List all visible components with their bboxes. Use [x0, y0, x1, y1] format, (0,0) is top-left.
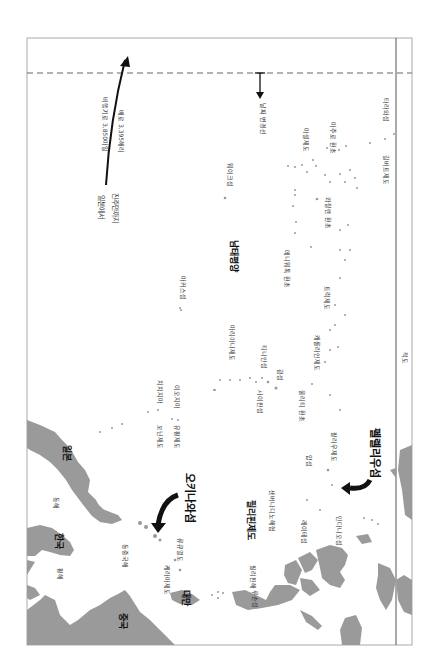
label-volcano: 유황제도	[174, 425, 180, 449]
land-japan	[27, 420, 122, 524]
label-china: 중국	[118, 613, 127, 629]
label-san-bernardino: 샌버나디노해협	[269, 490, 275, 532]
label-kwajalein: 콰잘렌 환초	[325, 197, 331, 229]
land-china	[27, 560, 175, 645]
label-luzon: 루손섬	[252, 590, 258, 608]
label-saipan: 사이판섬	[257, 390, 263, 414]
route-arrowhead-icon	[120, 56, 130, 67]
label-marshall: 마셜제도	[303, 128, 309, 152]
date-line-label: 날짜 변경선	[260, 103, 266, 135]
label-east-china-sea: 동중국해	[122, 544, 128, 568]
map-frame	[27, 38, 412, 645]
label-yellow-sea: 황해	[57, 568, 63, 580]
route-distance-air: 비행기로 3,850마일	[102, 97, 108, 152]
label-korea: 한국	[54, 533, 63, 549]
land-luzon	[232, 585, 300, 610]
label-south-pacific: 남태평양	[229, 240, 238, 272]
land-halmahera	[376, 563, 396, 610]
label-yap: 얍섬	[306, 455, 312, 467]
label-philippine-sea: 필리핀해	[250, 565, 256, 589]
land-palawan	[300, 610, 322, 630]
label-gilbert: 길버트제도	[383, 155, 389, 185]
label-taiwan: 대만	[181, 590, 190, 606]
label-iwojima: 이오지마	[174, 385, 180, 409]
label-japan: 일본	[62, 445, 71, 461]
label-majuro: 마주로 환초	[330, 122, 336, 154]
callout-okinawa: 오키나와섬	[184, 473, 195, 523]
route-label-2: 진주만까지	[111, 193, 118, 223]
dateline-arrow-icon	[256, 92, 264, 99]
callout-peleliu: 펠렐리우섬	[369, 428, 380, 478]
equator-label: 적도	[402, 352, 408, 364]
label-mindanao: 민다나오섬	[336, 516, 342, 546]
label-ulithi: 울리티 환초	[299, 390, 305, 422]
pacific-map	[0, 0, 437, 669]
label-mariana: 마리아나제도	[229, 325, 235, 361]
label-philippines: 필리핀제도	[246, 500, 255, 540]
land-mindanao	[316, 545, 348, 588]
label-caroline: 캐롤라인제도	[314, 335, 320, 371]
land-small-islands	[356, 468, 396, 544]
label-palau: 팔라우제도	[331, 432, 337, 462]
peleliu-arrowhead-icon	[341, 482, 350, 495]
label-wake: 웨이크섬	[227, 163, 233, 187]
label-tinian: 티니안섬	[261, 345, 267, 369]
label-chichijima: 치치지마	[157, 380, 163, 404]
route-distance-sea: 배로 3,395해리	[118, 110, 124, 153]
label-truk: 트럭제도	[324, 286, 330, 310]
label-ryukyu: 류큐열도	[177, 538, 183, 562]
land-newguinea	[396, 445, 412, 615]
label-eniwetok: 에니웨톡 환초	[284, 250, 290, 288]
land-korea	[27, 525, 74, 556]
label-bonin: 보닌제도	[157, 425, 163, 449]
label-tarawa: 타라와섬	[383, 98, 389, 122]
route-label-1: 일본에서	[97, 195, 104, 219]
label-marcus: 마커스섬	[180, 276, 186, 300]
label-leyte: 레이테섬	[301, 520, 307, 544]
okinawa-arrowhead-icon	[151, 523, 166, 533]
label-east-sea: 동해	[53, 497, 59, 509]
peleliu-arrow	[350, 480, 370, 488]
label-guam: 괌섬	[277, 369, 283, 381]
okinawa-arrow	[158, 495, 178, 525]
label-kerama: 케라마제도	[164, 565, 170, 595]
land-borneo	[340, 615, 362, 645]
land-shandong	[27, 585, 40, 600]
